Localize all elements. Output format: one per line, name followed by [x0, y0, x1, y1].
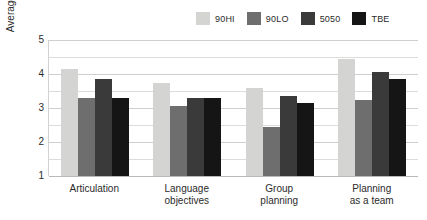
- legend-label-1: 90LO: [266, 14, 289, 24]
- y-axis-ticks: 12345: [30, 40, 48, 176]
- category-label-1: Languageobjectives: [141, 183, 234, 206]
- plot-area: 12345: [30, 40, 418, 176]
- bar-group: [49, 40, 141, 176]
- legend-swatch-2: [301, 12, 315, 25]
- legend-item-2[interactable]: 5050: [301, 12, 341, 25]
- y-tick-label: 5: [38, 35, 44, 45]
- bar-90HI-0[interactable]: [61, 69, 78, 176]
- legend-label-2: 5050: [320, 14, 341, 24]
- bar-90LO-0[interactable]: [78, 98, 95, 176]
- bar-5050-3[interactable]: [372, 72, 389, 176]
- legend-item-3[interactable]: TBE: [352, 12, 389, 25]
- legend-label-0: 90HI: [215, 14, 235, 24]
- bar-TBE-2[interactable]: [297, 103, 314, 176]
- bar-90HI-2[interactable]: [246, 88, 263, 176]
- plot-canvas: [48, 40, 418, 176]
- bar-5050-2[interactable]: [280, 96, 297, 176]
- y-axis-title: Average score: [4, 0, 18, 68]
- y-tick-label: 3: [38, 103, 44, 113]
- legend-swatch-0: [196, 12, 210, 25]
- bar-90LO-1[interactable]: [170, 106, 187, 176]
- bar-90HI-3[interactable]: [338, 59, 355, 176]
- x-axis-category-labels: ArticulationLanguageobjectivesGroupplann…: [48, 183, 418, 206]
- bar-TBE-3[interactable]: [389, 79, 406, 176]
- legend-swatch-1: [247, 12, 261, 25]
- category-label-3: Planningas a team: [326, 183, 419, 206]
- bar-TBE-1[interactable]: [204, 98, 221, 176]
- bar-group: [141, 40, 233, 176]
- bar-5050-1[interactable]: [187, 98, 204, 176]
- bar-5050-0[interactable]: [95, 79, 112, 176]
- category-label-2: Groupplanning: [233, 183, 326, 206]
- legend-item-1[interactable]: 90LO: [247, 12, 289, 25]
- gridline: [49, 176, 418, 177]
- y-tick-label: 4: [38, 69, 44, 79]
- chart-legend: 90HI 90LO 5050 TBE: [196, 12, 402, 25]
- y-tick-label: 2: [38, 137, 44, 147]
- legend-label-3: TBE: [371, 14, 389, 24]
- bar-group: [326, 40, 418, 176]
- legend-swatch-3: [352, 12, 366, 25]
- bar-90LO-3[interactable]: [355, 100, 372, 177]
- bar-groups: [49, 40, 418, 176]
- category-label-0: Articulation: [48, 183, 141, 206]
- y-tick-label: 1: [38, 171, 44, 181]
- bar-90HI-1[interactable]: [153, 83, 170, 177]
- bar-group: [234, 40, 326, 176]
- bar-chart: 90HI 90LO 5050 TBE Average score 12345 A…: [0, 0, 427, 220]
- legend-item-0[interactable]: 90HI: [196, 12, 235, 25]
- bar-90LO-2[interactable]: [263, 127, 280, 176]
- bar-TBE-0[interactable]: [112, 98, 129, 176]
